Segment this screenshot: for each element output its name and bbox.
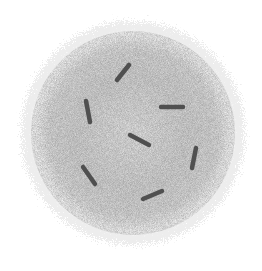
micrograph-scene [0, 0, 262, 271]
fuzzy-sphere [21, 21, 245, 245]
micrograph-image [0, 0, 262, 271]
